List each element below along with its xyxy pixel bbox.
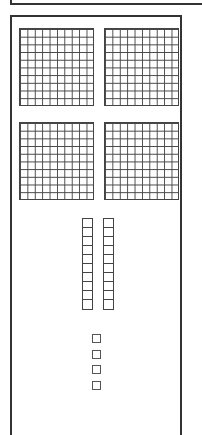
hundreds-flat-1 [19, 28, 94, 106]
hundreds-flat-2 [104, 28, 179, 106]
tens-rod-1 [82, 218, 93, 310]
ones-unit-3 [92, 365, 101, 374]
hundreds-flat-4 [104, 122, 179, 200]
ones-unit-1 [92, 334, 101, 343]
top-border-strip [10, 0, 202, 5]
tens-rod-2 [103, 218, 114, 310]
hundreds-flat-3 [19, 122, 94, 200]
ones-unit-2 [92, 350, 101, 359]
ones-unit-4 [92, 381, 101, 390]
